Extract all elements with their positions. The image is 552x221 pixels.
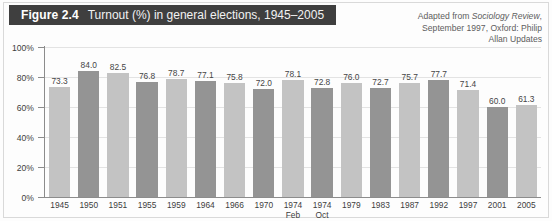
bar[interactable]: 75.7 (399, 83, 420, 197)
bar[interactable]: 60.0 (487, 107, 508, 197)
bar[interactable]: 72.8 (311, 88, 332, 197)
bar-slot: 77.7 (424, 47, 453, 197)
bar[interactable]: 76.0 (341, 83, 362, 197)
y-axis-tick-label: 80% (17, 73, 34, 83)
bar-slot: 78.1 (278, 47, 307, 197)
figure-number: Figure 2.4 (21, 8, 79, 22)
x-axis-label: 1959 (162, 200, 191, 220)
bar[interactable]: 73.3 (49, 87, 70, 197)
bar-value-label: 76.8 (139, 71, 155, 81)
x-axis-label: 1979 (337, 200, 366, 220)
attribution-line3: Allan Updates (488, 34, 542, 44)
bar-value-label: 78.1 (285, 69, 301, 79)
x-axis-label: 1983 (366, 200, 395, 220)
bar-slot: 84.0 (74, 47, 103, 197)
bar-series: 73.384.082.576.878.777.175.872.078.172.8… (45, 47, 541, 197)
x-axis-label: 2005 (512, 200, 541, 220)
bar-slot: 77.1 (191, 47, 220, 197)
bar-value-label: 71.4 (460, 79, 476, 89)
x-axis-line (44, 197, 541, 198)
y-axis-tick-label: 60% (17, 103, 34, 113)
bar-slot: 82.5 (103, 47, 132, 197)
bar-slot: 71.4 (453, 47, 482, 197)
bar[interactable]: 72.7 (370, 88, 391, 197)
y-axis-tick: 0% (38, 197, 45, 198)
bar[interactable]: 84.0 (78, 71, 99, 197)
bar[interactable]: 76.8 (136, 82, 157, 197)
y-axis-tick-label: 40% (17, 133, 34, 143)
y-axis-tick-label: 100% (12, 43, 34, 53)
attribution-source-title: Sociology Review (472, 11, 540, 21)
bar-value-label: 72.7 (372, 77, 388, 87)
x-axis-label: 1951 (103, 200, 132, 220)
bar[interactable]: 78.1 (282, 80, 303, 197)
attribution-line2: September 1997, Oxford: Philip (422, 23, 542, 33)
bar-slot: 75.7 (395, 47, 424, 197)
x-axis-label: 1945 (45, 200, 74, 220)
bar[interactable]: 77.1 (195, 81, 216, 197)
bar-value-label: 60.0 (489, 96, 505, 106)
x-axis-label: 1974Feb (278, 200, 307, 220)
bar-slot: 72.7 (366, 47, 395, 197)
bar-slot: 72.0 (249, 47, 278, 197)
x-axis-label: 1997 (453, 200, 482, 220)
bar-value-label: 61.3 (518, 94, 534, 104)
figure-caption: Turnout (%) in general elections, 1945–2… (88, 8, 324, 22)
x-axis-sublabel: Oct (308, 210, 337, 220)
plot-area: 73.384.082.576.878.777.175.872.078.172.8… (45, 47, 541, 197)
bar[interactable]: 72.0 (253, 89, 274, 197)
x-axis-label: 1950 (74, 200, 103, 220)
x-axis-labels: 194519501951195519591964196619701974Feb1… (45, 200, 541, 220)
bar-slot: 72.8 (308, 47, 337, 197)
x-axis-label: 1966 (220, 200, 249, 220)
bar[interactable]: 71.4 (457, 90, 478, 197)
y-axis-tick: 100% (38, 47, 45, 48)
bar[interactable]: 77.7 (428, 80, 449, 197)
y-axis-tick: 20% (38, 167, 45, 168)
bar-value-label: 75.7 (401, 72, 417, 82)
y-axis-line (44, 46, 45, 198)
x-axis-label: 1992 (424, 200, 453, 220)
bar-value-label: 76.0 (343, 72, 359, 82)
bar-slot: 76.0 (337, 47, 366, 197)
y-axis-tick: 80% (38, 77, 45, 78)
bar-value-label: 84.0 (81, 60, 97, 70)
x-axis-label: 2001 (483, 200, 512, 220)
bar-value-label: 77.7 (431, 69, 447, 79)
bar-value-label: 82.5 (110, 62, 126, 72)
bar[interactable]: 78.7 (166, 79, 187, 197)
bar-slot: 75.8 (220, 47, 249, 197)
x-axis-label: 1955 (133, 200, 162, 220)
x-axis-label: 1970 (249, 200, 278, 220)
y-axis-tick-label: 20% (17, 163, 34, 173)
y-axis-tick: 60% (38, 107, 45, 108)
figure-container: Figure 2.4 Turnout (%) in general electi… (0, 0, 552, 221)
bar-slot: 73.3 (45, 47, 74, 197)
x-axis-label: 1974Oct (308, 200, 337, 220)
figure-title-banner: Figure 2.4 Turnout (%) in general electi… (9, 5, 336, 25)
bar[interactable]: 82.5 (107, 73, 128, 197)
x-axis-label: 1964 (191, 200, 220, 220)
bar-value-label: 77.1 (197, 70, 213, 80)
bar-value-label: 73.3 (51, 76, 67, 86)
bar[interactable]: 61.3 (516, 105, 537, 197)
x-axis-label: 1987 (395, 200, 424, 220)
x-axis-sublabel: Feb (278, 210, 307, 220)
attribution-text: Adapted from Sociology Review, September… (362, 11, 542, 46)
bar[interactable]: 75.8 (224, 83, 245, 197)
bar-value-label: 75.8 (226, 72, 242, 82)
bar-value-label: 72.0 (256, 78, 272, 88)
y-axis-tick: 40% (38, 137, 45, 138)
y-axis-tick-label: 0% (22, 193, 34, 203)
bar-value-label: 78.7 (168, 68, 184, 78)
bar-slot: 61.3 (512, 47, 541, 197)
bar-slot: 76.8 (133, 47, 162, 197)
attribution-line1-prefix: Adapted from (418, 11, 472, 21)
attribution-line1-suffix: , (540, 11, 542, 21)
bar-slot: 78.7 (162, 47, 191, 197)
bar-value-label: 72.8 (314, 77, 330, 87)
bar-slot: 60.0 (483, 47, 512, 197)
